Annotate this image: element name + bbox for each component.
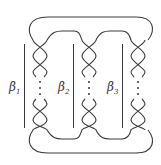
outer-bottom-arc — [29, 130, 152, 153]
outer-top-arc — [29, 17, 152, 40]
label-beta-2: β2 — [57, 80, 70, 96]
label-beta-1: β1 — [8, 80, 20, 96]
ellipsis-3 — [137, 81, 139, 95]
label-beta-3: β3 — [106, 80, 119, 96]
pretzel-link-diagram: β1 β2 β3 — [0, 0, 161, 165]
inner-top-arc-1 — [47, 31, 82, 40]
twist-column-2 — [82, 40, 96, 130]
inner-bottom-arc-2 — [96, 130, 131, 139]
twist-column-3 — [131, 40, 145, 130]
ellipsis-1 — [39, 81, 41, 95]
twist-column-1 — [33, 40, 47, 130]
inner-top-arc-2 — [96, 31, 131, 40]
inner-bottom-arc-1 — [47, 130, 82, 139]
ellipsis-2 — [88, 81, 90, 95]
